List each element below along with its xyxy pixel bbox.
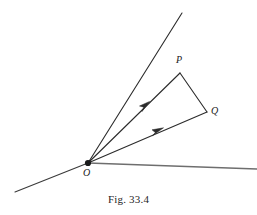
figure-caption: Fig. 33.4	[0, 193, 257, 205]
segment-pq-line	[180, 73, 207, 112]
upper-ray-line	[88, 13, 182, 163]
vector-op-arrowhead	[140, 102, 150, 112]
vector-op-line	[88, 73, 180, 163]
vertex-label-o: O	[83, 168, 90, 178]
geometry-diagram	[0, 0, 257, 215]
vertex-label-p: P	[176, 55, 182, 65]
figure-container: O P Q Fig. 33.4	[0, 0, 257, 215]
vertex-label-q: Q	[211, 106, 218, 116]
vector-oq-line	[88, 112, 207, 163]
baseline-right-line	[88, 163, 257, 169]
baseline-left-line	[15, 163, 88, 192]
origin-point-marker	[85, 160, 91, 166]
